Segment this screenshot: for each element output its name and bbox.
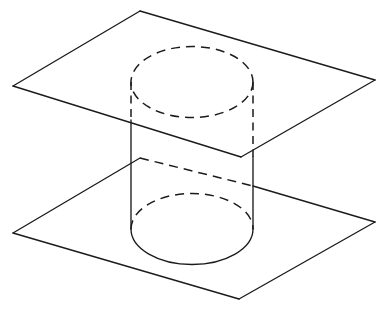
cylinder-top-circle-hidden: [131, 47, 253, 118]
cylinder-bottom-circle-back-half-hidden: [131, 194, 253, 229]
upper-plane-right-front-edge: [241, 80, 375, 157]
lower-plane-right-back-edge-visible: [253, 186, 375, 222]
upper-plane-left-back-edge: [13, 11, 140, 86]
lower-plane-left-back-edge: [13, 158, 140, 233]
lower-plane-right-back-edge-hidden: [140, 158, 253, 186]
upper-plane: [13, 11, 375, 157]
lower-plane: [13, 158, 375, 299]
cylinder-two-planes-diagram: [0, 0, 386, 312]
cylinder-bottom-circle-front-half-visible: [131, 229, 253, 264]
cylinder-bottom-ellipse: [131, 194, 253, 265]
upper-plane-left-front-edge: [13, 86, 241, 157]
lower-plane-left-front-edge: [13, 233, 239, 299]
geometry-figure: [0, 0, 386, 312]
cylinder-top-ellipse: [131, 47, 253, 118]
upper-plane-right-back-edge: [140, 11, 375, 80]
lower-plane-right-front-edge: [239, 222, 375, 299]
